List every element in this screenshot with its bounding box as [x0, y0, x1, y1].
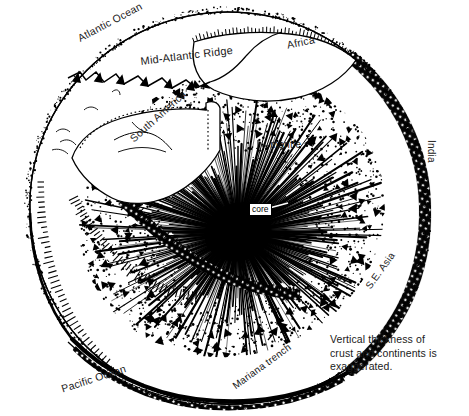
label-mantle: mantle	[270, 140, 301, 150]
caption-line-1: Vertical thickness of	[330, 333, 437, 347]
label-india: India	[426, 140, 436, 163]
label-core: core	[249, 203, 272, 216]
earth-cutaway-figure: Atlantic Ocean Mid-Atlantic Ridge Africa…	[0, 0, 469, 416]
caption-line-3: exaggerated.	[330, 360, 437, 374]
figure-caption: Vertical thickness of crust and continen…	[330, 333, 437, 374]
caption-line-2: crust and continents is	[330, 347, 437, 361]
